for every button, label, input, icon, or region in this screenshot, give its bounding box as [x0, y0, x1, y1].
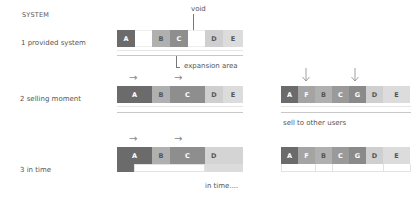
block-c: C	[170, 147, 205, 164]
block-e: E	[223, 30, 243, 47]
expansion-area-empty	[281, 164, 411, 172]
sell-to-other-users-label: sell to other users	[283, 119, 346, 127]
block-f: F	[298, 86, 315, 103]
block-b: B	[152, 30, 170, 47]
divider	[332, 164, 333, 172]
expansion-filled-d	[205, 164, 243, 172]
block-d: D	[205, 30, 223, 47]
row3-resold-bar: A F B C G D E	[281, 147, 410, 164]
row3-system-bar: A B C D	[117, 147, 243, 164]
diagram-title: SYSTEM	[22, 11, 49, 19]
divider	[383, 164, 384, 172]
divider	[315, 164, 316, 172]
block-void	[188, 30, 205, 47]
block-c: C	[332, 147, 349, 164]
block-a: A	[281, 147, 298, 164]
row-label-2: 2 selling moment	[20, 95, 81, 103]
block-a: A	[117, 147, 152, 164]
row2-system-bar: A B C D E	[117, 86, 243, 103]
expansion-area-label: expansion area	[184, 62, 238, 70]
block-a: A	[117, 86, 152, 103]
right-arrow-icon: →	[129, 134, 137, 144]
block-f: F	[298, 147, 315, 164]
block-e: E	[383, 147, 410, 164]
row2-resold-bar: A F B C G D E	[281, 86, 410, 103]
block-d: D	[205, 86, 223, 103]
block-c: C	[170, 30, 188, 47]
void-label: void	[191, 5, 206, 13]
row-label-3: 3 in time	[20, 166, 51, 174]
expansion-line-lower	[117, 55, 243, 56]
block-b: B	[152, 86, 170, 103]
block-b: B	[315, 86, 332, 103]
row1-system-bar: A B C D E	[117, 30, 243, 47]
row-label-1: 1 provided system	[21, 39, 86, 47]
expansion-line-upper	[117, 106, 243, 107]
right-arrow-icon: →	[129, 73, 137, 83]
in-time-label: in time....	[205, 182, 238, 190]
block-a: A	[281, 86, 298, 103]
block-b: B	[152, 147, 170, 164]
block-d: D	[366, 86, 383, 103]
block-g: G	[349, 147, 366, 164]
expansion-leader-hook	[176, 67, 180, 68]
expansion-filled-a	[117, 164, 134, 172]
expansion-line-lower	[117, 112, 243, 113]
expansion-line-upper	[281, 106, 411, 107]
down-arrow-icon	[302, 68, 310, 82]
block-g: G	[349, 86, 366, 103]
expansion-line-upper	[117, 50, 243, 51]
right-arrow-icon: →	[174, 134, 182, 144]
expansion-empty	[134, 164, 205, 172]
expansion-line-lower	[281, 112, 411, 113]
block-void	[135, 30, 152, 47]
right-arrow-icon: →	[174, 73, 182, 83]
block-a: A	[117, 30, 135, 47]
block-d: D	[205, 147, 243, 164]
block-e: E	[223, 86, 243, 103]
block-e: E	[383, 86, 410, 103]
block-c: C	[332, 86, 349, 103]
block-b: B	[315, 147, 332, 164]
block-d: D	[366, 147, 383, 164]
down-arrow-icon	[351, 68, 359, 82]
block-c: C	[170, 86, 205, 103]
